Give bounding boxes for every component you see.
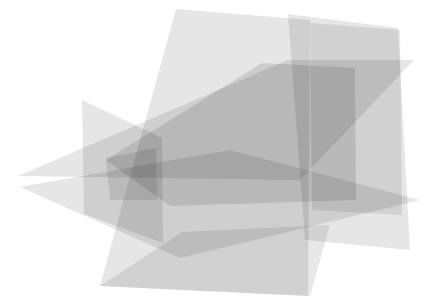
scene-canvas bbox=[0, 0, 425, 296]
planes-svg bbox=[0, 0, 425, 296]
right-back-panel bbox=[310, 23, 402, 215]
